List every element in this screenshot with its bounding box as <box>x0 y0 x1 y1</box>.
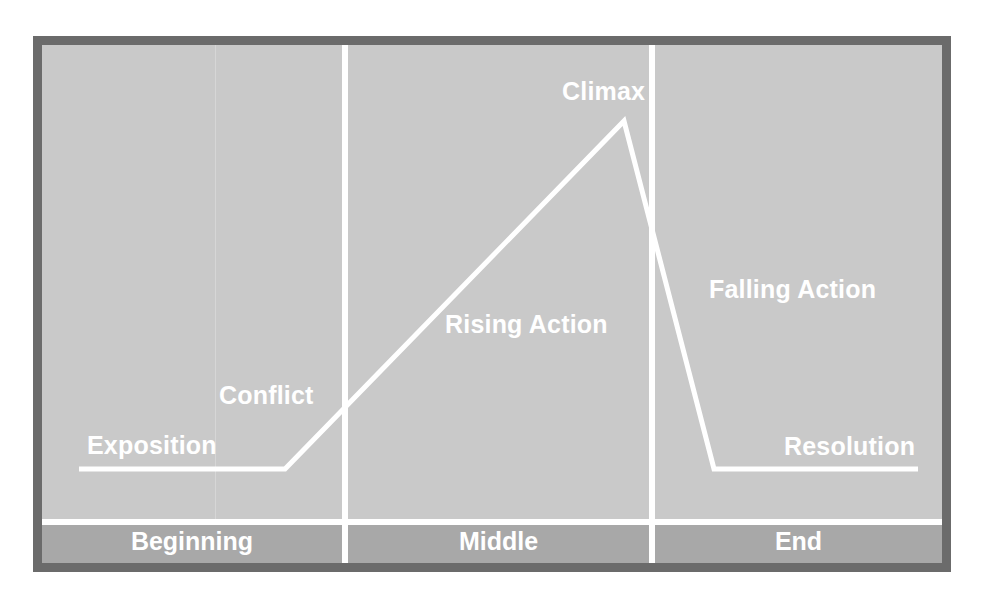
plot-area: Exposition Conflict Rising Action Climax… <box>42 45 942 563</box>
label-exposition: Exposition <box>87 431 217 460</box>
label-rising-action: Rising Action <box>445 310 608 339</box>
segment-middle: Middle <box>348 527 649 556</box>
label-falling-action: Falling Action <box>709 275 876 304</box>
plot-lines <box>42 45 942 563</box>
divider-middle-end <box>649 45 655 563</box>
segment-beginning: Beginning <box>42 527 342 556</box>
label-conflict: Conflict <box>219 381 314 410</box>
divider-beginning-middle <box>342 45 348 563</box>
diagram-frame: Exposition Conflict Rising Action Climax… <box>33 36 951 572</box>
segment-end: End <box>655 527 942 556</box>
label-resolution: Resolution <box>784 432 915 461</box>
label-climax: Climax <box>562 77 645 106</box>
footer-divider <box>42 519 942 525</box>
